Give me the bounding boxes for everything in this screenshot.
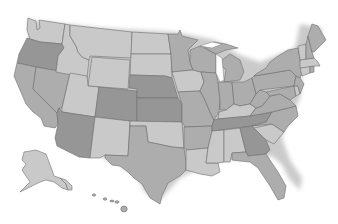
- state-kansas[interactable]: [137, 98, 182, 122]
- state-new-mexico[interactable]: [90, 117, 130, 158]
- us-states-map: [0, 0, 338, 224]
- state-maine[interactable]: [308, 24, 326, 52]
- state-hawaii-molokai[interactable]: [110, 200, 114, 202]
- alaska: [20, 150, 72, 192]
- state-hawaii-oahu[interactable]: [103, 198, 107, 200]
- hawaii: [92, 194, 127, 212]
- state-hawaii-kauai[interactable]: [92, 194, 95, 196]
- state-rhode-island[interactable]: [310, 66, 314, 73]
- state-alaska[interactable]: [20, 150, 68, 192]
- state-north-dakota[interactable]: [131, 32, 171, 54]
- state-colorado[interactable]: [95, 87, 137, 122]
- state-wyoming[interactable]: [88, 57, 130, 89]
- state-arkansas[interactable]: [184, 126, 212, 150]
- state-iowa[interactable]: [172, 70, 204, 92]
- state-hawaii-big-island[interactable]: [121, 206, 127, 212]
- contiguous-us: [14, 18, 326, 204]
- state-south-dakota[interactable]: [130, 54, 172, 78]
- state-hawaii-maui[interactable]: [115, 201, 119, 204]
